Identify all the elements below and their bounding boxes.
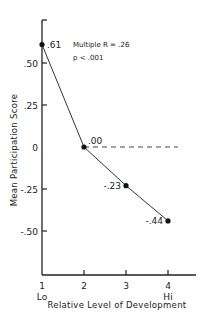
y-tick-label: -.50 — [20, 227, 38, 237]
data-label: -.44 — [145, 216, 163, 226]
series-line — [42, 45, 168, 221]
y-tick-label: .50 — [24, 59, 39, 69]
x-tick-label: 2 — [81, 281, 87, 291]
data-point — [165, 218, 170, 223]
y-tick-label: .25 — [24, 101, 38, 111]
x-axis-title: Relative Level of Development — [48, 300, 187, 310]
data-label: .00 — [88, 136, 103, 146]
x-tick-sublabel: Lo — [37, 292, 48, 302]
x-tick-label: 3 — [123, 281, 129, 291]
x-tick-label: 4 — [165, 281, 171, 291]
x-tick-label: 1 — [39, 281, 45, 291]
line-chart: .50.250-.25-.501Lo234Hi.61.00-.23-.44Mul… — [0, 0, 206, 329]
series-marks — [39, 42, 170, 224]
data-point — [123, 183, 128, 188]
axes — [42, 20, 196, 275]
data-point — [81, 144, 86, 149]
y-axis-title: Mean Participation Score — [9, 94, 19, 207]
data-point — [39, 42, 44, 47]
data-label: .61 — [47, 40, 61, 50]
data-label: -.23 — [103, 181, 121, 191]
annotation-multiple-r: Multiple R = .26 — [73, 41, 130, 49]
y-tick-label: -.25 — [20, 185, 38, 195]
y-tick-label: 0 — [32, 143, 38, 153]
chart-labels: .50.250-.25-.501Lo234Hi.61.00-.23-.44Mul… — [9, 40, 187, 310]
annotation-p-value: p < .001 — [73, 54, 103, 62]
